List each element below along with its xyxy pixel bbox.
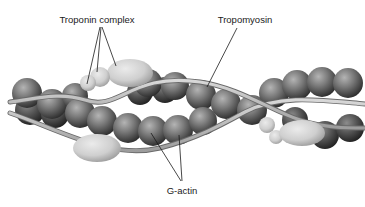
thin-filament-diagram: Troponin complex Tropomyosin G-actin <box>0 0 365 207</box>
tropomyosin-label: Tropomyosin <box>218 14 273 25</box>
troponin-complex-bottom-left <box>73 134 121 162</box>
troponin-complex-right <box>259 117 325 146</box>
troponin-complex-label: Troponin complex <box>59 14 134 25</box>
g-actin-label: G-actin <box>167 185 198 196</box>
